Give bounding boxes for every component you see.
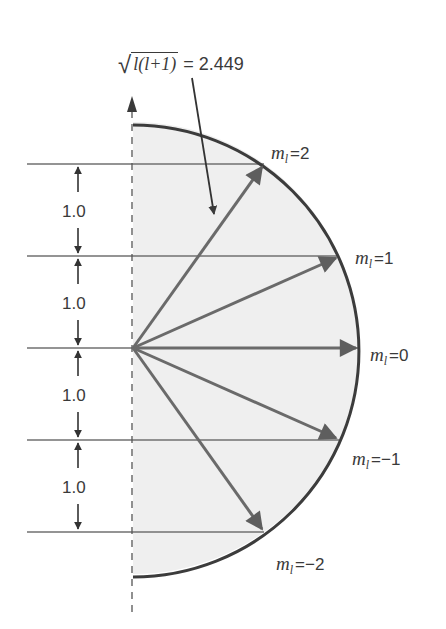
ml-label-0: ml=0 (370, 345, 408, 367)
ml-label-minus2: ml=−2 (276, 554, 324, 576)
formula-value: = 2.449 (183, 54, 244, 74)
vector-model-diagram (0, 0, 446, 629)
formula-radicand: l(l+1) (131, 52, 178, 73)
spacing-label-2: 1.0 (62, 294, 86, 313)
magnitude-formula: √l(l+1) = 2.449 (118, 52, 244, 77)
ml-label-minus1: ml=−1 (352, 449, 400, 471)
spacing-label-4: 1.0 (62, 478, 86, 497)
ml-label-2: ml=2 (271, 143, 309, 165)
ml-label-1: ml=1 (355, 248, 393, 270)
z-axis-arrow-icon (127, 96, 137, 112)
spacing-label-3: 1.0 (62, 386, 86, 405)
sqrt-symbol: √ (118, 51, 131, 78)
spacing-label-1: 1.0 (62, 202, 86, 221)
